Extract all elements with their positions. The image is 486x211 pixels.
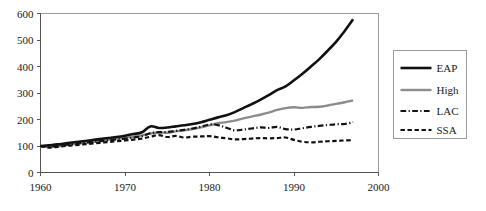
x-tick-label: 1970 [114, 181, 137, 193]
x-tick-label: 1980 [199, 181, 222, 193]
chart-figure: 0100200300400500600 19601970198019902000… [0, 0, 486, 211]
legend-label-ssa: SSA [437, 124, 457, 136]
y-tick-label: 0 [28, 167, 34, 179]
legend-label-lac: LAC [437, 105, 459, 117]
y-tick-label: 600 [17, 8, 34, 20]
x-tick-label: 1990 [283, 181, 306, 193]
y-tick-label: 200 [17, 114, 34, 126]
y-tick-label: 300 [17, 87, 34, 99]
x-tick-label: 1960 [30, 181, 53, 193]
x-tick-label: 2000 [368, 181, 391, 193]
legend-label-eap: EAP [437, 62, 458, 74]
line-chart: 0100200300400500600 19601970198019902000… [0, 0, 486, 211]
legend-label-high: High [437, 84, 460, 96]
chart-legend: EAPHighLACSSA [394, 51, 467, 139]
y-tick-label: 400 [17, 61, 34, 73]
y-tick-label: 100 [17, 140, 34, 152]
y-tick-label: 500 [17, 34, 34, 46]
